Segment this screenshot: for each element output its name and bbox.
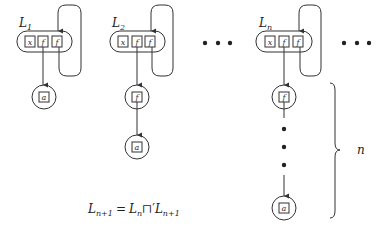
ellipsis-dots-right — [342, 41, 371, 45]
node-label: a — [282, 204, 287, 213]
list-label: L1 — [18, 16, 32, 32]
list-label: Ln — [258, 16, 272, 32]
node-label: a — [42, 93, 47, 102]
cell-label: f — [296, 38, 302, 47]
chain-dot — [282, 163, 286, 167]
cell-label: f — [148, 38, 154, 47]
node-label: a — [135, 143, 140, 152]
ellipsis-dots — [203, 41, 232, 45]
cell-label: f — [55, 38, 61, 47]
cell-label: f — [41, 38, 47, 47]
list-L1: L1 x f f a — [17, 5, 81, 109]
node-label: f — [282, 93, 288, 102]
list-label: L2 — [111, 16, 125, 32]
self-loop-arrow — [299, 5, 321, 76]
cell-label: f — [282, 38, 288, 47]
brace-label: n — [357, 143, 365, 157]
list-Ln: Ln x f f f a — [256, 5, 321, 220]
chain-dot — [282, 145, 286, 149]
cell-label: f — [135, 38, 141, 47]
cell-label: x — [268, 38, 273, 47]
list-L2: L2 x f f f a — [110, 5, 173, 159]
curly-brace — [330, 83, 340, 218]
cell-label: x — [121, 38, 126, 47]
self-loop-arrow — [151, 5, 173, 76]
cell-label: x — [28, 38, 33, 47]
chain-dot — [282, 127, 286, 131]
node-label: f — [135, 93, 141, 102]
equation: Ln+1=Ln⊓′Ln+1 — [87, 202, 180, 218]
self-loop-arrow — [58, 5, 81, 76]
